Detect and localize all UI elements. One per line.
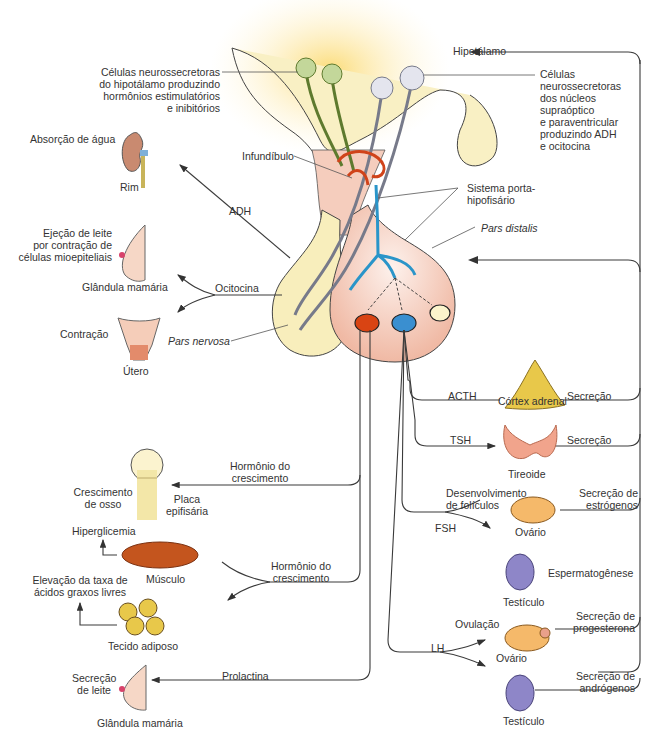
- label-utero: Útero: [123, 365, 149, 377]
- label-pars-distalis: Pars distalis: [481, 222, 538, 234]
- label-glandula-mamaria-1: Glândula mamária: [82, 281, 168, 293]
- label-secrecao-estrogenos: Secreção de estrógenos: [560, 487, 638, 511]
- cell-red: [355, 314, 379, 332]
- breast-illustration-1: [122, 225, 145, 281]
- thyroid-illustration: [504, 425, 557, 459]
- label-ocitocina: Ocitocina: [215, 282, 259, 294]
- label-pars-nervosa: Pars nervosa: [168, 335, 230, 347]
- label-ovario-2: Ovário: [496, 652, 527, 664]
- label-musculo: Músculo: [146, 573, 185, 585]
- label-glandula-mamaria-2: Glândula mamária: [97, 717, 183, 729]
- label-crescimento-osso: Crescimento de osso: [70, 486, 136, 510]
- label-testiculo-2: Testículo: [503, 715, 544, 727]
- label-acth: ACTH: [448, 390, 477, 402]
- label-gh-2: Hormônio do crescimento: [268, 560, 334, 584]
- label-lh: LH: [431, 642, 444, 654]
- label-testiculo-1: Testículo: [503, 596, 544, 608]
- label-infundibulo: Infundíbulo: [242, 150, 294, 162]
- label-rim: Rim: [120, 181, 139, 193]
- label-mama-effect: Ejeção de leite por contração de células…: [14, 227, 112, 263]
- muscle-illustration: [122, 542, 198, 568]
- kidney-illustration: [122, 133, 148, 188]
- label-cells-right: Células neurossecretoras dos núcleos sup…: [540, 68, 621, 152]
- label-gh-1: Hormônio do crescimento: [220, 460, 300, 484]
- label-sistema-porta: Sistema porta- hipofisário: [467, 182, 535, 206]
- cell-yellow: [430, 305, 450, 321]
- label-prolactina: Prolactina: [222, 670, 269, 682]
- testis-illustration-2: [506, 675, 534, 711]
- label-rim-effect: Absorção de água: [30, 133, 115, 145]
- adipose-illustration: [119, 599, 164, 635]
- label-ovario-1: Ovário: [515, 526, 546, 538]
- label-hipotalamo: Hipotálamo: [453, 45, 506, 57]
- label-tecido-adiposo: Tecido adiposo: [108, 640, 178, 652]
- label-ovulacao: Ovulação: [455, 618, 499, 630]
- label-secrecao-androgenos: Secreção de andrógenos: [555, 670, 635, 694]
- label-contracao: Contração: [60, 328, 108, 340]
- label-secrecao-1: Secreção: [567, 390, 611, 402]
- cell-blue: [392, 314, 416, 332]
- label-tireoide: Tireoide: [508, 468, 546, 480]
- testis-illustration-1: [506, 554, 534, 590]
- label-placa-epifisaria: Placa epifisária: [162, 493, 212, 517]
- label-fsh: FSH: [435, 522, 456, 534]
- label-hiperglicemia: Hiperglicemia: [72, 525, 136, 537]
- label-adh: ADH: [229, 205, 251, 217]
- label-tsh: TSH: [450, 434, 471, 446]
- label-secrecao-2: Secreção: [567, 434, 611, 446]
- label-espermatogenese: Espermatogênese: [548, 567, 633, 579]
- label-secrecao-leite: Secreção de leite: [72, 672, 116, 696]
- label-secrecao-progesterona: Secreção de progesterona: [555, 610, 635, 634]
- label-desenvolvimento-foliculos: Desenvolvimento de folículos: [446, 487, 527, 511]
- breast-illustration-2: [124, 665, 146, 710]
- label-cortex-adrenal: Córtex adrenal: [498, 395, 567, 407]
- label-cells-left: Células neurossecretoras do hipotálamo p…: [96, 66, 220, 114]
- label-acidos-graxos: Elevação da taxa de ácidos graxos livres: [28, 574, 132, 598]
